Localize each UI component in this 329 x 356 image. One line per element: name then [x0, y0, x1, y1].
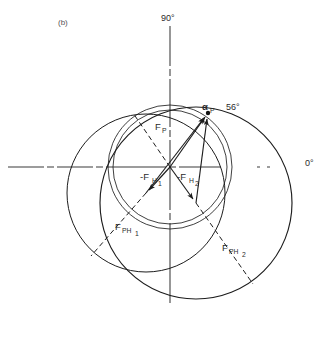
label-alpha-p-sub: P — [210, 107, 215, 114]
label-minus-f-h1-index: 1 — [158, 180, 162, 187]
label-f-ph2: F PH 2 — [222, 242, 246, 258]
label-f-p-sub: P — [162, 127, 167, 134]
label-minus-f-h2: -F H 2 — [177, 171, 199, 187]
label-f-ph1-sub: PH — [122, 227, 132, 234]
label-alpha-p-main: α — [202, 101, 208, 112]
label-f-ph1-main: F — [115, 221, 121, 232]
panel-label: (b) — [58, 18, 68, 27]
label-f-ph2-main: F — [222, 242, 228, 253]
label-f-ph2-sub: PH — [229, 248, 239, 255]
label-f-p: F P — [155, 121, 167, 134]
label-f-ph1-index: 1 — [135, 230, 139, 237]
label-minus-f-h1-sub: H — [152, 177, 157, 184]
axis-label-vertical: 90° — [161, 13, 175, 23]
label-f-ph2-index: 2 — [242, 251, 246, 258]
label-minus-f-h2-index: 2 — [195, 180, 199, 187]
label-angle-56: 56° — [226, 102, 240, 112]
vector-f-p — [170, 117, 205, 167]
vector-f-ph2-to-p — [196, 119, 207, 203]
label-minus-f-h2-main: -F — [177, 171, 186, 182]
harker-phase-diagram: (b) 90° 0° α P 56° F P -F H 1 -F H 2 F P… — [0, 0, 329, 356]
dashed-radius-f-p — [133, 113, 170, 167]
label-f-p-main: F — [155, 121, 161, 132]
label-f-ph1: F PH 1 — [115, 221, 139, 237]
axis-label-horizontal: 0° — [305, 158, 314, 168]
label-minus-f-h1-main: -F — [140, 171, 149, 182]
label-minus-f-h2-sub: H — [189, 177, 194, 184]
circle-group — [67, 105, 292, 299]
